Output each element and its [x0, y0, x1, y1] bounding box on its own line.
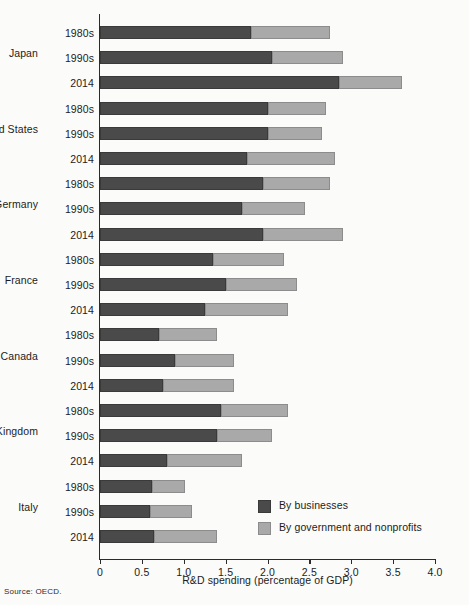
- country-label: Japan: [0, 47, 38, 59]
- bar-segment-government-nonprofits: [263, 177, 330, 190]
- bar-segment-businesses: [100, 127, 268, 140]
- bar-segment-businesses: [100, 228, 263, 241]
- bar-row: [100, 454, 242, 467]
- period-label: 1990s: [32, 430, 94, 442]
- period-label: 1990s: [32, 279, 94, 291]
- chart-figure: 1980s1990s2014Japan1980s1990s2014United …: [0, 0, 469, 605]
- period-label: 1980s: [32, 254, 94, 266]
- country-label: United Kingdom: [0, 425, 38, 437]
- bar-segment-government-nonprofits: [268, 127, 322, 140]
- x-tick: [309, 559, 310, 564]
- x-tick: [393, 559, 394, 564]
- bar-segment-businesses: [100, 404, 221, 417]
- bar-segment-businesses: [100, 303, 205, 316]
- x-axis-title: R&D spending (percentage of GDP): [100, 574, 435, 586]
- bar-row: [100, 253, 284, 266]
- period-label: 2014: [32, 304, 94, 316]
- period-label: 2014: [32, 380, 94, 392]
- bar-segment-government-nonprofits: [247, 152, 335, 165]
- bar-row: [100, 228, 343, 241]
- legend-swatch-government-nonprofits: [258, 522, 271, 535]
- bar-segment-businesses: [100, 379, 163, 392]
- bar-segment-government-nonprofits: [152, 480, 186, 493]
- period-label: 1990s: [32, 203, 94, 215]
- bar-segment-businesses: [100, 454, 167, 467]
- bar-segment-businesses: [100, 480, 152, 493]
- bar-segment-government-nonprofits: [268, 102, 327, 115]
- country-label: Germany: [0, 198, 38, 210]
- bar-segment-businesses: [100, 26, 251, 39]
- x-tick: [268, 559, 269, 564]
- period-label: 1980s: [32, 405, 94, 417]
- period-label: 1990s: [32, 128, 94, 140]
- bar-row: [100, 429, 272, 442]
- x-tick: [226, 559, 227, 564]
- period-label: 1980s: [32, 178, 94, 190]
- bar-segment-businesses: [100, 102, 268, 115]
- legend-label-government-nonprofits: By government and nonprofits: [279, 521, 422, 533]
- bar-segment-businesses: [100, 152, 247, 165]
- bar-segment-government-nonprofits: [272, 51, 343, 64]
- country-label: France: [0, 274, 38, 286]
- bar-row: [100, 379, 234, 392]
- bar-row: [100, 26, 330, 39]
- legend-label-businesses: By businesses: [279, 499, 348, 511]
- country-label: Italy: [0, 501, 38, 513]
- bar-segment-businesses: [100, 530, 154, 543]
- bar-segment-government-nonprofits: [167, 454, 242, 467]
- bar-segment-businesses: [100, 429, 217, 442]
- bar-segment-government-nonprofits: [226, 278, 297, 291]
- bar-segment-government-nonprofits: [205, 303, 289, 316]
- bar-segment-businesses: [100, 328, 159, 341]
- bar-row: [100, 480, 185, 493]
- country-label: Canada: [0, 350, 38, 362]
- country-label: United States: [0, 123, 38, 135]
- period-label: 1990s: [32, 355, 94, 367]
- bar-segment-businesses: [100, 505, 150, 518]
- bar-row: [100, 278, 297, 291]
- bar-row: [100, 152, 335, 165]
- bar-row: [100, 354, 234, 367]
- bar-row: [100, 177, 330, 190]
- bar-segment-businesses: [100, 76, 339, 89]
- period-label: 2014: [32, 77, 94, 89]
- bar-segment-government-nonprofits: [150, 505, 192, 518]
- plot-area: 00.51.01.52.02.53.03.54.0: [100, 14, 435, 559]
- bar-segment-government-nonprofits: [154, 530, 217, 543]
- bar-segment-government-nonprofits: [163, 379, 234, 392]
- bar-row: [100, 202, 305, 215]
- bar-row: [100, 51, 343, 64]
- period-label: 1980s: [32, 103, 94, 115]
- period-label: 2014: [32, 153, 94, 165]
- bar-segment-businesses: [100, 253, 213, 266]
- bar-segment-businesses: [100, 354, 175, 367]
- bar-segment-government-nonprofits: [213, 253, 284, 266]
- period-label: 1980s: [32, 329, 94, 341]
- bar-row: [100, 303, 288, 316]
- bar-segment-government-nonprofits: [175, 354, 234, 367]
- bar-segment-government-nonprofits: [263, 228, 343, 241]
- period-label: 1990s: [32, 506, 94, 518]
- x-tick: [100, 559, 101, 564]
- bar-row: [100, 127, 322, 140]
- bar-segment-businesses: [100, 177, 263, 190]
- x-tick: [435, 559, 436, 564]
- bar-segment-businesses: [100, 51, 272, 64]
- bar-segment-government-nonprofits: [217, 429, 271, 442]
- bar-segment-government-nonprofits: [242, 202, 305, 215]
- period-label: 1990s: [32, 52, 94, 64]
- bar-segment-businesses: [100, 278, 226, 291]
- bar-segment-government-nonprofits: [221, 404, 288, 417]
- bar-row: [100, 404, 288, 417]
- period-label: 2014: [32, 531, 94, 543]
- bar-row: [100, 76, 402, 89]
- x-tick: [184, 559, 185, 564]
- bar-segment-government-nonprofits: [251, 26, 331, 39]
- source-note: Source: OECD.: [4, 587, 62, 596]
- bar-row: [100, 102, 326, 115]
- period-label: 1980s: [32, 27, 94, 39]
- bar-segment-government-nonprofits: [339, 76, 402, 89]
- bar-segment-government-nonprofits: [159, 328, 218, 341]
- legend-swatch-businesses: [258, 500, 271, 513]
- x-tick: [351, 559, 352, 564]
